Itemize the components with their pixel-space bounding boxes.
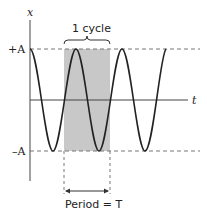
oscillation-diagram: x t +A –A 1 cycle Period = T	[0, 0, 207, 217]
period-label: Period = T	[65, 198, 123, 211]
period-arrow-right-head	[104, 189, 109, 194]
y-axis-label: x	[27, 6, 34, 19]
cycle-bracket	[64, 36, 110, 44]
cycle-label: 1 cycle	[72, 22, 111, 35]
period-arrow-left-head	[65, 189, 70, 194]
minus-a-label: –A	[12, 145, 27, 158]
plus-a-label: +A	[8, 43, 26, 56]
t-axis-label: t	[192, 94, 197, 107]
